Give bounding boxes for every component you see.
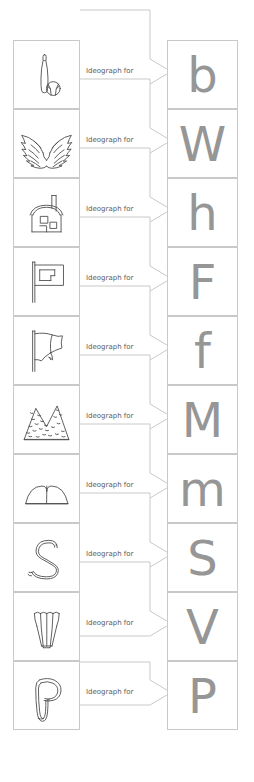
ideograph-letter-diagram: Ideograph forbIdeograph forWIdeograph fo… [0,0,254,782]
letter-glyph: F [168,248,237,315]
connector-label: Ideograph for [86,412,156,421]
connector-label: Ideograph for [86,481,156,490]
connector-label: Ideograph for [86,343,156,352]
letter-cell: h [167,178,238,247]
flag-straight-icon [14,248,79,315]
mapping-row: Ideograph forP [0,661,254,730]
ideograph-cell [13,592,80,661]
mapping-row: Ideograph forV [0,592,254,661]
ideograph-cell [13,385,80,454]
connector-label: Ideograph for [86,136,156,145]
rocky-mountains-icon [14,386,79,453]
pot-jug-icon [14,662,79,729]
letter-glyph: m [168,455,237,522]
ideograph-cell [13,316,80,385]
ideograph-cell [13,247,80,316]
letter-glyph: V [168,593,237,660]
letter-cell: S [167,523,238,592]
house-icon [14,179,79,246]
letter-glyph: f [168,317,237,384]
snake-icon [14,524,79,591]
letter-cell: M [167,385,238,454]
letter-cell: F [167,247,238,316]
ideograph-for-connector: Ideograph for [78,661,172,730]
letter-cell: W [167,109,238,178]
ideograph-cell [13,661,80,730]
ideograph-cell [13,178,80,247]
letter-glyph: P [168,662,237,729]
letter-glyph: h [168,179,237,246]
letter-glyph: W [168,110,237,177]
connector-label: Ideograph for [86,619,156,628]
ideograph-cell [13,109,80,178]
letter-glyph: M [168,386,237,453]
letter-cell: f [167,316,238,385]
ideograph-cell [13,523,80,592]
letter-cell: m [167,454,238,523]
flag-waving-icon [14,317,79,384]
connector-label: Ideograph for [86,67,156,76]
vase-tulip-icon [14,593,79,660]
letter-cell: V [167,592,238,661]
connector-label: Ideograph for [86,274,156,283]
letter-cell: b [167,40,238,109]
letter-glyph: S [168,524,237,591]
baseball-bat-and-ball-icon [14,41,79,108]
ideograph-cell [13,454,80,523]
mapping-row-list: Ideograph forbIdeograph forWIdeograph fo… [0,0,254,782]
rolling-hills-icon [14,455,79,522]
connector-label: Ideograph for [86,205,156,214]
letter-cell: P [167,661,238,730]
letter-glyph: b [168,41,237,108]
connector-label: Ideograph for [86,688,156,697]
ideograph-for-connector: Ideograph for [78,592,172,661]
ideograph-cell [13,40,80,109]
wings-icon [14,110,79,177]
connector-label: Ideograph for [86,550,156,559]
